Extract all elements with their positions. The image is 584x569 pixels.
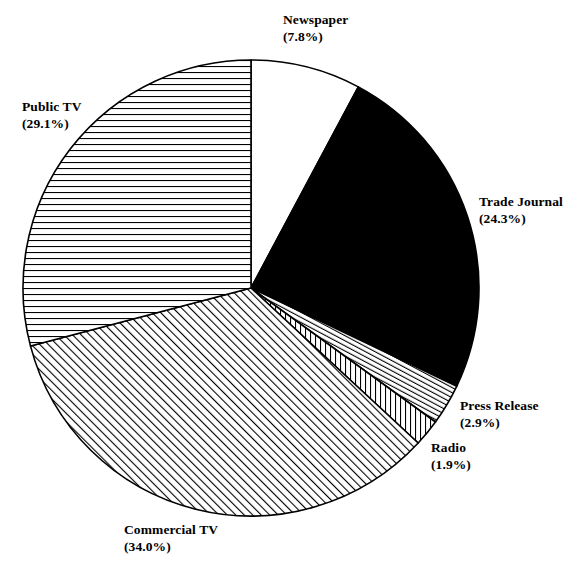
slice-label-public-tv: Public TV (29.1%) (22, 99, 82, 133)
slice-label-press-release-name: Press Release (460, 398, 539, 415)
slice-label-trade-journal: Trade Journal (24.3%) (479, 194, 563, 228)
slice-label-newspaper-name: Newspaper (283, 12, 348, 29)
pie-slices-group (23, 60, 479, 516)
pie-chart-canvas (0, 0, 584, 569)
slice-label-newspaper-percent: (7.8%) (283, 29, 348, 46)
pie-chart: Newspaper (7.8%) Public TV (29.1%) Trade… (0, 0, 584, 569)
slice-label-commercial-tv-percent: (34.0%) (124, 539, 218, 556)
slice-label-newspaper: Newspaper (7.8%) (283, 12, 348, 46)
slice-label-press-release-percent: (2.9%) (460, 415, 539, 432)
slice-label-public-tv-name: Public TV (22, 99, 82, 116)
slice-label-radio-name: Radio (431, 440, 471, 457)
slice-label-commercial-tv: Commercial TV (34.0%) (124, 522, 218, 556)
slice-label-radio-percent: (1.9%) (431, 457, 471, 474)
slice-label-trade-journal-name: Trade Journal (479, 194, 563, 211)
slice-label-trade-journal-percent: (24.3%) (479, 211, 563, 228)
slice-label-commercial-tv-name: Commercial TV (124, 522, 218, 539)
slice-label-press-release: Press Release (2.9%) (460, 398, 539, 432)
slice-label-radio: Radio (1.9%) (431, 440, 471, 474)
slice-label-public-tv-percent: (29.1%) (22, 116, 82, 133)
